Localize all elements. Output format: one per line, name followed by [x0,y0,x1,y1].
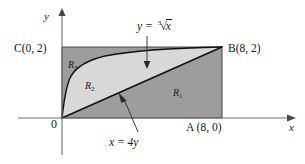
y-axis-label: y [44,11,49,22]
y-axis-arrowhead [58,8,65,16]
region-r1-subscript: 1 [179,92,183,100]
cube-root-equation-label: y = 3√x [137,20,172,33]
region-label-r3: R3 [68,60,78,70]
point-label-a: A (8, 0) [186,122,221,134]
origin-label: 0 [51,118,57,130]
point-label-c: C(0, 2) [14,43,47,55]
region-label-r1: R1 [173,88,183,98]
radicand: x [166,19,172,32]
radical-index: 3 [158,19,162,27]
region-label-r2: R2 [85,81,95,91]
region-r3-subscript: 3 [74,64,78,72]
line-equation-label: x = 4y [109,137,138,149]
radical-group: 3√x [156,20,172,33]
figure-container: y x 0 C(0, 2) B(8, 2) A (8, 0) y = 3√x x… [0,0,305,164]
x-axis-label: x [289,122,294,133]
cube-root-equation-prefix: y = [137,20,156,32]
point-label-b: B(8, 2) [228,43,261,55]
region-r2-subscript: 2 [91,85,95,93]
